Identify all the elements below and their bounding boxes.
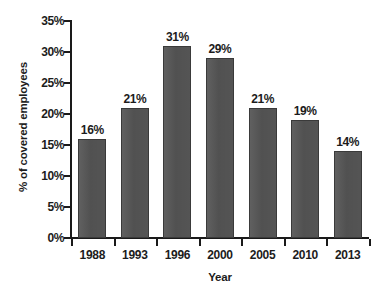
x-tick-label: 2000 <box>207 248 233 262</box>
bar[interactable] <box>163 46 191 238</box>
y-tick-label: 15% <box>28 138 64 152</box>
bar[interactable] <box>206 58 234 238</box>
y-tick-mark <box>64 82 71 84</box>
x-tick-label: 1996 <box>165 248 191 262</box>
x-tick-label: 2013 <box>335 248 361 262</box>
x-tick-mark <box>71 239 73 246</box>
plot-area: 16%21%31%29%21%19%14% <box>71 21 369 238</box>
x-tick-label: 2005 <box>250 248 276 262</box>
y-tick-mark <box>64 206 71 208</box>
y-tick-mark <box>64 144 71 146</box>
bar[interactable] <box>249 108 277 238</box>
x-tick-label: 1988 <box>80 248 106 262</box>
y-tick-mark <box>64 51 71 53</box>
bar-value-label: 16% <box>81 123 104 137</box>
x-axis-tick-labels: 1988199319962000200520102013 <box>71 248 369 266</box>
y-tick-label: 0% <box>28 231 64 245</box>
x-tick-mark <box>369 239 371 246</box>
bar-value-label: 21% <box>123 92 146 106</box>
bar-group[interactable]: 29% <box>199 21 242 238</box>
y-tick-mark <box>64 20 71 22</box>
y-axis-tick-labels: 0%5%10%15%20%25%30%35% <box>28 0 64 297</box>
bar[interactable] <box>78 139 106 238</box>
x-tick-mark <box>326 239 328 246</box>
bar-value-label: 29% <box>209 42 232 56</box>
bar-group[interactable]: 21% <box>241 21 284 238</box>
bar-group[interactable]: 21% <box>114 21 157 238</box>
bar-value-label: 21% <box>251 92 274 106</box>
y-tick-label: 20% <box>28 107 64 121</box>
x-tick-mark <box>241 239 243 246</box>
y-tick-label: 5% <box>28 200 64 214</box>
bar-group[interactable]: 14% <box>326 21 369 238</box>
y-tick-mark <box>64 175 71 177</box>
y-tick-label: 30% <box>28 45 64 59</box>
y-tick-mark <box>64 113 71 115</box>
x-tick-mark <box>114 239 116 246</box>
bar[interactable] <box>121 108 149 238</box>
y-tick-label: 25% <box>28 76 64 90</box>
y-tick-label: 35% <box>28 14 64 28</box>
bar-group[interactable]: 31% <box>156 21 199 238</box>
bar-chart: % of covered employees 0%5%10%15%20%25%3… <box>0 0 377 297</box>
bar-value-label: 31% <box>166 30 189 44</box>
bar-value-label: 19% <box>294 104 317 118</box>
x-tick-label: 1993 <box>122 248 148 262</box>
x-axis-title: Year <box>71 271 369 283</box>
x-tick-mark <box>284 239 286 246</box>
y-tick-mark <box>64 237 71 239</box>
x-tick-mark <box>199 239 201 246</box>
x-tick-mark <box>156 239 158 246</box>
bar[interactable] <box>334 151 362 238</box>
bar-value-label: 14% <box>336 135 359 149</box>
x-tick-label: 2010 <box>292 248 318 262</box>
y-tick-label: 10% <box>28 169 64 183</box>
bar[interactable] <box>291 120 319 238</box>
bar-group[interactable]: 19% <box>284 21 327 238</box>
bar-group[interactable]: 16% <box>71 21 114 238</box>
